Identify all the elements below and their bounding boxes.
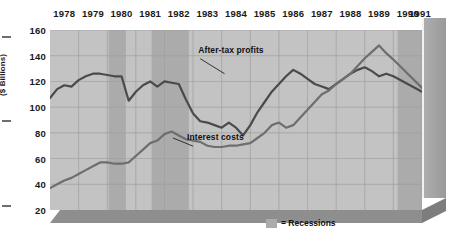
chart-3d-right-wall: [422, 18, 446, 198]
x-axis-tick-label: 1978: [53, 8, 75, 19]
annotation-interest-costs: Interest costs: [187, 132, 244, 142]
x-axis-tick-label: 1984: [225, 8, 247, 19]
series-lines-group: [50, 45, 422, 188]
y-axis-tick-label: 40: [35, 179, 46, 190]
x-axis-tick-label: 1980: [111, 8, 133, 19]
x-axis-tick-label: 1986: [282, 8, 304, 19]
recession-band: [109, 30, 126, 210]
y-axis-tick-label: 120: [30, 76, 46, 87]
chart-svg: [50, 30, 422, 210]
y-axis-tick-label: 80: [35, 127, 46, 138]
registration-mark-bottom: [2, 205, 11, 207]
x-axis-tick-label: 1982: [168, 8, 190, 19]
plot-area: [50, 30, 422, 210]
annotation-after-tax-profits: After-tax profits: [198, 45, 263, 55]
x-axis-tick-label: 1987: [311, 8, 333, 19]
x-axis-tick-label: 1981: [139, 8, 161, 19]
y-axis-tick-label: 160: [30, 25, 46, 36]
series-line-after-tax-profits: [50, 67, 422, 135]
chart-figure: ($ Billions) 16014012010080604020 197819…: [0, 0, 468, 245]
registration-mark-middle: [2, 120, 11, 122]
y-axis-tick-labels: 16014012010080604020: [20, 30, 46, 210]
x-axis-tick-label: 1989: [368, 8, 390, 19]
y-axis-tick-label: 100: [30, 102, 46, 113]
x-axis-tick-label: 1983: [196, 8, 218, 19]
recession-band: [152, 30, 189, 210]
annotation-leader-line: [200, 59, 224, 74]
legend: = Recessions: [266, 218, 336, 228]
chart-3d-base-right: [422, 198, 446, 223]
y-axis-title: ($ Billions): [0, 16, 7, 96]
recession-bands-group: [109, 30, 422, 210]
recession-band: [398, 30, 422, 210]
legend-swatch-recessions: [266, 219, 277, 228]
y-axis-tick-label: 20: [35, 205, 46, 216]
x-axis-tick-label: 1985: [254, 8, 276, 19]
x-axis-tick-label: 1988: [339, 8, 361, 19]
chart-3d-base-front: [50, 210, 422, 223]
x-axis-tick-labels: 1978197919801981198219831984198519861987…: [50, 8, 422, 24]
x-axis-tick-label: 1979: [82, 8, 104, 19]
legend-label-recessions: = Recessions: [281, 218, 336, 228]
y-axis-tick-label: 60: [35, 153, 46, 164]
plot-area-wrapper: After-tax profits Interest costs = Reces…: [50, 30, 422, 210]
y-axis-tick-label: 140: [30, 50, 46, 61]
